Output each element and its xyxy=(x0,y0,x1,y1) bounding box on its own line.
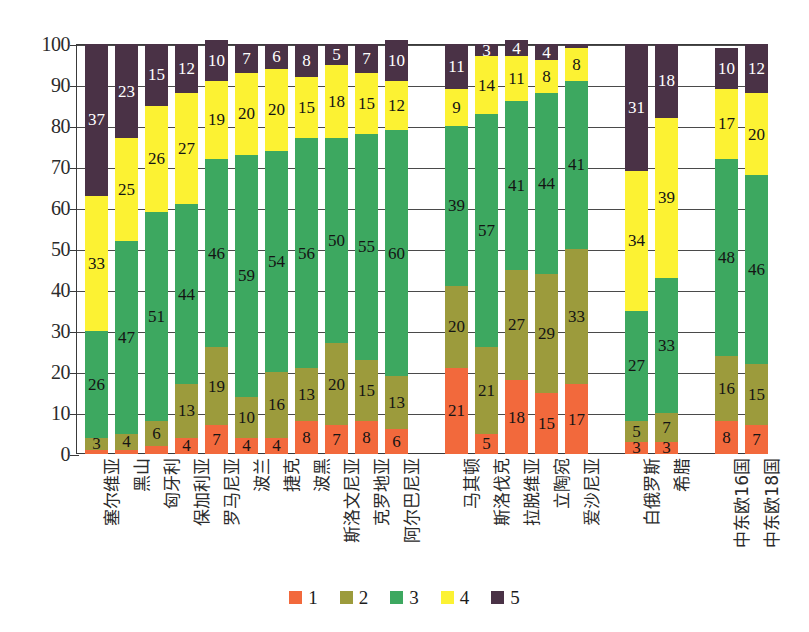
stacked-bar-chart: 0102030405060708090100 13263337144725232… xyxy=(0,0,809,632)
bar-segment: 20 xyxy=(325,343,348,425)
bar-segment: 19 xyxy=(205,347,228,425)
y-tick-label: 50 xyxy=(51,239,70,259)
bar-segment-value: 60 xyxy=(388,245,405,262)
bar-segment: 12 xyxy=(385,81,408,130)
legend-swatch xyxy=(441,591,454,604)
bar-segment: 8 xyxy=(565,48,588,81)
bar-segment-value: 27 xyxy=(628,357,645,374)
bar-column: 52157143 xyxy=(475,44,498,454)
x-axis-label-text: 中东欧16国 xyxy=(734,458,751,548)
bar-segment-value: 26 xyxy=(148,150,165,167)
legend-item[interactable]: 2 xyxy=(340,588,369,607)
bar-segment-value: 34 xyxy=(628,232,645,249)
x-axis-label-text: 爱沙尼亚 xyxy=(584,458,601,526)
x-axis-labels: 塞尔维亚黑山匈牙利保加利亚罗马尼亚波兰捷克波黑斯洛文尼亚克罗地亚阿尔巴尼亚马其顿… xyxy=(76,458,746,570)
bar-segment-value: 41 xyxy=(568,156,585,173)
bars-layer: 1326333714472523265126154134427127194619… xyxy=(76,44,746,454)
bar-segment-value: 26 xyxy=(88,376,105,393)
x-axis-label-text: 克罗地亚 xyxy=(374,458,391,526)
bar-segment-value: 59 xyxy=(238,267,255,284)
bar-segment: 33 xyxy=(565,249,588,384)
bar-column: 37333918 xyxy=(655,44,678,454)
bar-segment-value: 33 xyxy=(88,255,105,272)
y-tick-label: 20 xyxy=(51,362,70,382)
bar-column: 182741114 xyxy=(505,40,528,454)
bar-segment: 15 xyxy=(535,393,558,455)
bar-segment: 34 xyxy=(625,171,648,310)
legend-item[interactable]: 5 xyxy=(491,588,520,607)
bar-segment: 10 xyxy=(715,48,738,89)
bar-segment-value: 4 xyxy=(182,437,191,454)
bar-segment: 57 xyxy=(475,114,498,348)
legend-label: 2 xyxy=(359,588,369,607)
bar-segment-value: 6 xyxy=(272,48,281,65)
legend-item[interactable]: 1 xyxy=(289,588,318,607)
y-axis: 0102030405060708090100 xyxy=(24,44,70,454)
x-axis-label-text: 罗马尼亚 xyxy=(224,458,241,526)
x-axis-label-text: 立陶宛 xyxy=(554,458,571,509)
bar-segment: 26 xyxy=(85,331,108,438)
legend-item[interactable]: 4 xyxy=(441,588,470,607)
bar-segment: 4 xyxy=(235,438,258,454)
bar-segment: 59 xyxy=(235,155,258,397)
bar-segment-value: 41 xyxy=(508,177,525,194)
legend-label: 5 xyxy=(510,588,520,607)
bar-segment-value: 18 xyxy=(328,93,345,110)
bar-segment-value: 12 xyxy=(748,60,765,77)
bar-column: 35273431 xyxy=(625,44,648,454)
bar-segment: 44 xyxy=(535,93,558,273)
bar-segment: 27 xyxy=(625,311,648,422)
bar-segment: 33 xyxy=(655,278,678,413)
bar-segment-value: 20 xyxy=(448,318,465,335)
bar-segment-value: 7 xyxy=(332,431,341,448)
bar-segment-value: 11 xyxy=(448,58,464,75)
bar-segment-value: 10 xyxy=(238,409,255,426)
legend-swatch xyxy=(289,591,302,604)
bar-segment: 11 xyxy=(505,56,528,101)
x-axis-label-text: 捷克 xyxy=(284,458,301,492)
bar-segment: 39 xyxy=(445,126,468,286)
bar-segment: 6 xyxy=(385,429,408,454)
bar-segment-value: 10 xyxy=(208,52,225,69)
bar-segment-value: 46 xyxy=(208,245,225,262)
bar-segment-value: 7 xyxy=(662,419,671,436)
bar-segment-value: 10 xyxy=(718,60,735,77)
bar-segment-value: 46 xyxy=(748,261,765,278)
legend-item[interactable]: 3 xyxy=(390,588,419,607)
bar-segment: 5 xyxy=(475,434,498,455)
bar-segment-value: 21 xyxy=(478,382,495,399)
bar-segment: 48 xyxy=(715,159,738,356)
bar-segment-value: 4 xyxy=(122,433,131,450)
bar-segment: 5 xyxy=(625,421,648,442)
bar-column: 816481710 xyxy=(715,48,738,454)
bar-segment-value: 15 xyxy=(358,382,375,399)
chart-legend: 12345 xyxy=(0,588,809,607)
bar-column: 72050185 xyxy=(325,44,348,454)
bar-segment: 41 xyxy=(565,81,588,249)
bar-segment-value: 33 xyxy=(568,308,585,325)
bar-column: 719461910 xyxy=(205,40,228,454)
y-tick-label: 90 xyxy=(51,75,70,95)
bar-segment-value: 29 xyxy=(538,325,555,342)
x-axis-label-text: 斯洛伐克 xyxy=(494,458,511,526)
bar-segment-value: 57 xyxy=(478,222,495,239)
bar-segment: 13 xyxy=(385,376,408,429)
bar-segment-value: 3 xyxy=(482,42,491,59)
bar-segment-value: 15 xyxy=(748,386,765,403)
bar-segment: 27 xyxy=(505,270,528,381)
bar-segment-value: 4 xyxy=(242,437,251,454)
bar-segment-value: 5 xyxy=(482,435,491,452)
bar-segment: 3 xyxy=(85,438,108,450)
bar-segment-value: 18 xyxy=(508,409,525,426)
bar-segment: 13 xyxy=(295,368,318,421)
bar-segment-value: 3 xyxy=(632,439,641,456)
bar-segment: 15 xyxy=(145,44,168,106)
bar-segment: 12 xyxy=(745,44,768,93)
bar-segment: 39 xyxy=(655,118,678,278)
bar-segment: 8 xyxy=(535,60,558,93)
bar-segment-value: 27 xyxy=(508,316,525,333)
bar-column: 41654206 xyxy=(265,44,288,454)
bar-segment: 29 xyxy=(535,274,558,393)
bar-segment: 17 xyxy=(565,384,588,454)
bar-segment: 12 xyxy=(175,44,198,93)
